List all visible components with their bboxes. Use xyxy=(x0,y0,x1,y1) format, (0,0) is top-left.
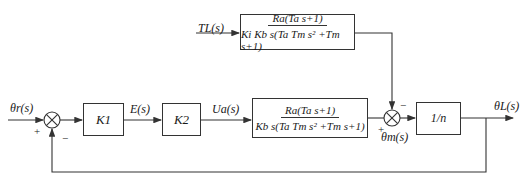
sum2-minus-sign: − xyxy=(400,100,406,111)
plant-transfer-function: Ra(Ta s+1) Kb s(Ta Tm s² +Tm s+1) xyxy=(255,104,364,132)
voltage-signal-label: Ua(s) xyxy=(212,103,239,115)
disturbance-numerator: Ra(Ta s+1) xyxy=(268,12,326,26)
output-signal-label: θL(s) xyxy=(494,100,519,112)
k1-label: K1 xyxy=(96,112,111,128)
sum1-minus-sign: − xyxy=(62,133,68,144)
plant-denominator: Kb s(Ta Tm s² +Tm s+1) xyxy=(255,118,364,132)
plant-numerator: Ra(Ta s+1) xyxy=(281,104,339,118)
k2-block: K2 xyxy=(162,103,201,136)
input-signal-label: θr(s) xyxy=(10,102,33,114)
error-signal-label: E(s) xyxy=(130,103,150,115)
disturbance-transfer-function: Ra(Ta s+1) Ki Kb s(Ta Tm s² +Tm s+1) xyxy=(241,12,354,52)
k1-block: K1 xyxy=(83,103,124,136)
k2-label: K2 xyxy=(174,112,189,128)
sum1-plus-sign: + xyxy=(34,126,40,137)
gear-ratio-block: 1/n xyxy=(416,102,461,135)
plant-block: Ra(Ta s+1) Kb s(Ta Tm s² +Tm s+1) xyxy=(252,98,368,138)
disturbance-block: Ra(Ta s+1) Ki Kb s(Ta Tm s² +Tm s+1) xyxy=(240,14,355,50)
disturbance-denominator: Ki Kb s(Ta Tm s² +Tm s+1) xyxy=(241,26,354,52)
load-torque-label: TL(s) xyxy=(198,22,224,34)
motor-angle-label: θm(s) xyxy=(381,131,408,143)
gear-ratio-label: 1/n xyxy=(431,111,446,126)
